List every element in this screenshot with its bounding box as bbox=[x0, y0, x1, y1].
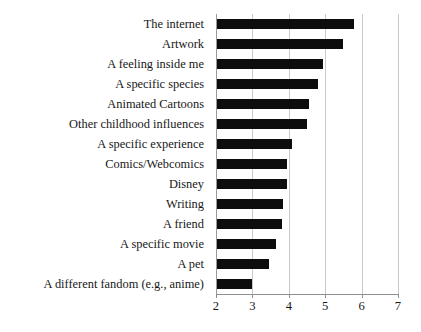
bar bbox=[216, 239, 276, 249]
category-label: A specific experience bbox=[97, 134, 204, 154]
bar bbox=[216, 39, 343, 49]
category-label: A feeling inside me bbox=[107, 54, 204, 74]
category-label: Other childhood influences bbox=[69, 114, 204, 134]
plot-area bbox=[216, 14, 398, 294]
x-tick-label: 4 bbox=[277, 299, 301, 314]
category-label: Artwork bbox=[162, 34, 204, 54]
bar bbox=[216, 119, 307, 129]
category-label: Comics/Webcomics bbox=[105, 154, 204, 174]
bar bbox=[216, 179, 287, 189]
bar bbox=[216, 19, 354, 29]
category-label: The internet bbox=[144, 14, 204, 34]
x-tick-mark bbox=[398, 294, 399, 298]
x-tick-label: 6 bbox=[350, 299, 374, 314]
bar bbox=[216, 159, 287, 169]
bar bbox=[216, 79, 318, 89]
bar bbox=[216, 219, 282, 229]
gridline-x-4 bbox=[289, 14, 290, 294]
x-tick-label: 3 bbox=[240, 299, 264, 314]
category-label: Animated Cartoons bbox=[107, 94, 204, 114]
category-label: Disney bbox=[169, 174, 204, 194]
category-label: A specific species bbox=[115, 74, 204, 94]
category-label: A pet bbox=[178, 254, 205, 274]
bar bbox=[216, 139, 292, 149]
category-label: A specific movie bbox=[120, 234, 204, 254]
x-tick-mark bbox=[362, 294, 363, 298]
gridline-x-7 bbox=[398, 14, 399, 294]
gridline-x-6 bbox=[362, 14, 363, 294]
bar bbox=[216, 59, 323, 69]
x-tick-mark bbox=[325, 294, 326, 298]
x-tick-mark bbox=[289, 294, 290, 298]
y-axis-line bbox=[216, 14, 217, 295]
gridline-x-5 bbox=[325, 14, 326, 294]
category-axis-labels: The internetArtworkA feeling inside meA … bbox=[0, 14, 210, 294]
x-tick-mark bbox=[216, 294, 217, 298]
x-tick-label: 7 bbox=[386, 299, 410, 314]
gridline-x-3 bbox=[252, 14, 253, 294]
bar bbox=[216, 199, 283, 209]
x-axis-line bbox=[216, 294, 399, 295]
bar bbox=[216, 259, 269, 269]
horizontal-bar-chart: The internetArtworkA feeling inside meA … bbox=[0, 0, 421, 332]
category-label: A friend bbox=[163, 214, 204, 234]
bar bbox=[216, 99, 309, 109]
category-label: A different fandom (e.g., anime) bbox=[44, 274, 204, 294]
x-tick-mark bbox=[252, 294, 253, 298]
x-tick-label: 2 bbox=[204, 299, 228, 314]
bar bbox=[216, 279, 252, 289]
x-tick-label: 5 bbox=[313, 299, 337, 314]
category-label: Writing bbox=[166, 194, 204, 214]
